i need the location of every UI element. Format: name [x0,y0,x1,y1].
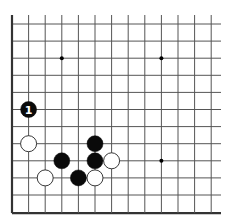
star-point-icon [159,159,163,163]
go-board-canvas[interactable]: 1 [0,0,231,224]
white-stone [104,153,120,169]
black-stone-icon [87,136,103,152]
black-stone [54,153,70,169]
white-stone-icon [104,153,120,169]
go-board[interactable]: 1 [0,0,231,224]
black-stone: 1 [21,102,37,118]
white-stone-icon [37,170,53,186]
white-stone [21,136,37,152]
star-point-icon [159,56,163,60]
black-stone [87,136,103,152]
black-stone [70,170,86,186]
black-stone-icon [70,170,86,186]
black-stone-icon [87,153,103,169]
white-stone [37,170,53,186]
stone-move-number: 1 [25,104,33,117]
black-stone-icon [54,153,70,169]
white-stone-icon [21,136,37,152]
star-point-icon [60,56,64,60]
white-stone-icon [87,170,103,186]
black-stone [87,153,103,169]
white-stone [87,170,103,186]
